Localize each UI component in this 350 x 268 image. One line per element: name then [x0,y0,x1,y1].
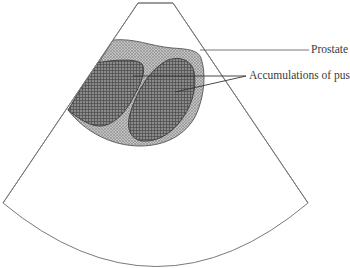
pus-label: Accumulations of pus [249,70,350,82]
prostate-label: Prostate [311,44,348,56]
